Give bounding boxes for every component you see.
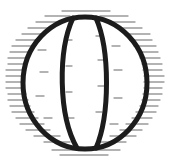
hatching-lines [6,11,164,155]
globe-illustration [0,0,171,167]
globe-outline [23,17,147,149]
globe-icon [0,0,171,167]
